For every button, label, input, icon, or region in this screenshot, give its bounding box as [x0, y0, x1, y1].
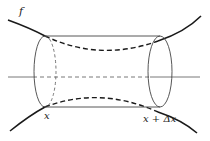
curve-f-lower-hidden — [45, 98, 158, 112]
curve-f-upper-right — [158, 16, 201, 41]
function-label: f — [19, 6, 23, 17]
curve-f-lower-left — [10, 107, 45, 131]
left-bound-label: x — [44, 111, 50, 121]
right-bound-label: x + Δx — [143, 114, 176, 124]
solid-of-revolution-diagram: f x x + Δx — [0, 0, 210, 141]
left-disk-back-edge — [45, 36, 56, 107]
curve-f-upper-left — [8, 20, 45, 36]
curve-f-upper-hidden — [45, 36, 158, 50]
diagram-canvas — [0, 0, 210, 141]
right-disk-edge — [148, 36, 172, 107]
left-disk-front-edge — [34, 36, 45, 107]
